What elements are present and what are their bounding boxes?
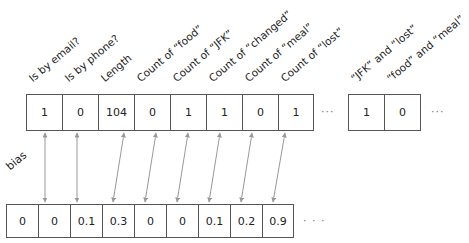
weight-cell: 0 [134,204,167,238]
weight-cell: 0.1 [198,204,231,238]
weight-cell: 0 [166,204,199,238]
weight-cell: 0.2 [230,204,263,238]
weight-cell: 0.3 [102,204,135,238]
weight-cell: 0 [38,204,71,238]
weight-cell-bias: 0 [6,204,39,238]
weight-ellipsis: · · · [303,214,325,227]
weight-cell: 0.9 [262,204,294,238]
weight-cell: 0.1 [70,204,103,238]
